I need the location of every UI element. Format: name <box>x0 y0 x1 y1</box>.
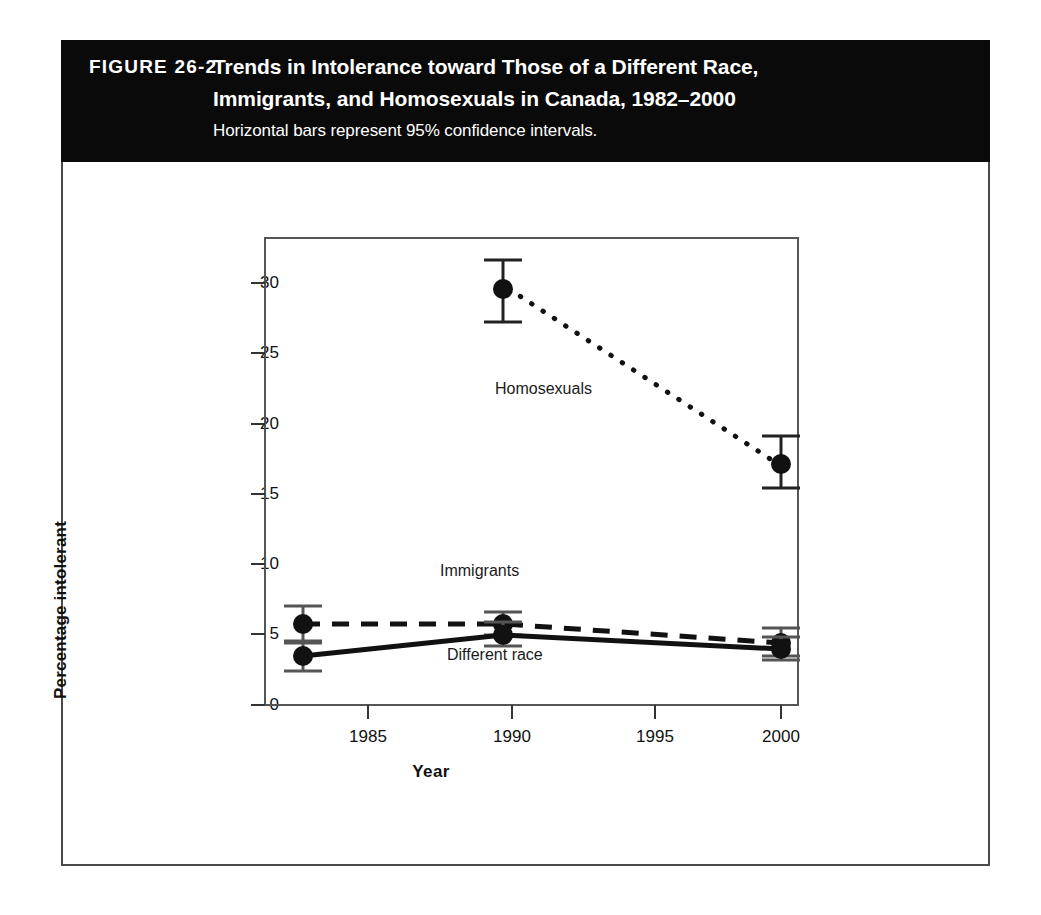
figure-page: FIGURE 26-2 Trends in Intolerance toward… <box>0 0 1041 915</box>
chart-area: Percentage intolerant Year 30 25 20 15 1… <box>61 162 990 866</box>
chart-plot-svg <box>61 162 990 866</box>
datapoint-homosexuals-2000 <box>771 454 791 474</box>
figure-title-line-1: Trends in Intolerance toward Those of a … <box>213 55 758 79</box>
x-axis-ticks <box>368 705 781 719</box>
figure-caption-banner: FIGURE 26-2 Trends in Intolerance toward… <box>61 40 990 162</box>
datapoint-homosexuals-1990 <box>493 279 513 299</box>
series-line-immigrants <box>303 624 781 643</box>
y-axis-ticks <box>251 283 265 705</box>
datapoint-different-race-2000 <box>771 639 791 659</box>
series-different-race <box>284 622 800 671</box>
series-line-homosexuals <box>509 289 778 464</box>
figure-number-label: FIGURE 26-2 <box>89 56 217 78</box>
datapoint-immigrants-1982 <box>293 614 313 634</box>
datapoint-different-race-1990 <box>493 625 513 645</box>
series-homosexuals <box>484 260 800 488</box>
figure-title-line-2: Immigrants, and Homosexuals in Canada, 1… <box>213 87 736 111</box>
datapoint-different-race-1982 <box>293 646 313 666</box>
figure-subtitle: Horizontal bars represent 95% confidence… <box>213 121 597 141</box>
